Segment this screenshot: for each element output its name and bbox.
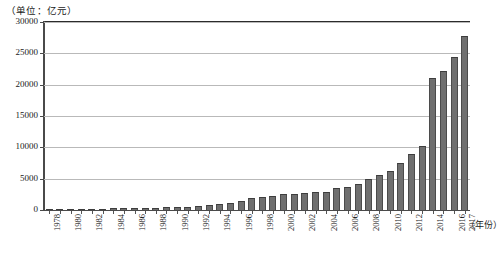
x-axis-tick-label: 1992 <box>202 214 211 231</box>
x-axis-tick-label: 1988 <box>159 214 168 231</box>
bar-series <box>44 22 470 210</box>
x-axis-tick-label: 2010 <box>394 214 403 231</box>
bar <box>195 206 202 210</box>
x-axis-title: （年份） <box>466 218 501 231</box>
bar <box>216 204 223 210</box>
unit-caption: （单位：亿元） <box>6 3 77 17</box>
bar <box>397 163 404 210</box>
bar <box>301 193 308 210</box>
bar <box>291 194 298 210</box>
bar <box>440 71 447 210</box>
bar <box>238 201 245 210</box>
x-axis-tick-label: 2014 <box>436 214 445 231</box>
bar <box>408 154 415 210</box>
x-axis-tick-label: 2016 <box>458 214 467 231</box>
bar <box>259 197 266 210</box>
x-axis-tick-label: 1996 <box>245 214 254 231</box>
bar <box>344 187 351 210</box>
x-axis-tick-label: 1990 <box>181 214 190 231</box>
x-axis-tick-label: 1980 <box>74 214 83 231</box>
x-axis-tick-label: 2012 <box>415 214 424 231</box>
bar <box>206 205 213 210</box>
bar <box>227 203 234 210</box>
bar <box>461 36 468 210</box>
bar <box>312 192 319 210</box>
bar <box>365 179 372 210</box>
x-axis-tick-label: 1984 <box>117 214 126 231</box>
x-axis-tick-label: 1986 <box>138 214 147 231</box>
x-axis-tick-label: 2004 <box>330 214 339 231</box>
x-axis-labels: 1978198019821984198619881990199219941996… <box>44 214 470 254</box>
x-axis-tick-label: 2000 <box>287 214 296 231</box>
bar <box>323 192 330 210</box>
bar <box>419 146 426 210</box>
y-axis-label: 20000 <box>0 80 38 89</box>
bar <box>184 207 191 211</box>
x-axis-tick-label: 1998 <box>266 214 275 231</box>
bar <box>355 184 362 210</box>
bar <box>174 207 181 210</box>
x-axis-tick-label: 1978 <box>53 214 62 231</box>
bar <box>248 198 255 210</box>
bar <box>451 57 458 210</box>
bar <box>376 175 383 210</box>
x-axis-tick-label: 2002 <box>308 214 317 231</box>
y-axis-label: 30000 <box>0 17 38 26</box>
x-axis-tick-label: 2008 <box>372 214 381 231</box>
bar <box>269 196 276 210</box>
y-axis-label: 0 <box>0 205 38 214</box>
y-axis-label: 15000 <box>0 111 38 120</box>
bar <box>333 188 340 210</box>
x-axis-tick-label: 2006 <box>351 214 360 231</box>
bar <box>429 78 436 210</box>
bar <box>280 194 287 210</box>
y-axis-label: 10000 <box>0 142 38 151</box>
x-axis-tick-label: 1994 <box>223 214 232 231</box>
x-axis-tick-label: 1982 <box>95 214 104 231</box>
bar <box>387 171 394 210</box>
y-axis-label: 5000 <box>0 174 38 183</box>
y-axis-label: 25000 <box>0 48 38 57</box>
